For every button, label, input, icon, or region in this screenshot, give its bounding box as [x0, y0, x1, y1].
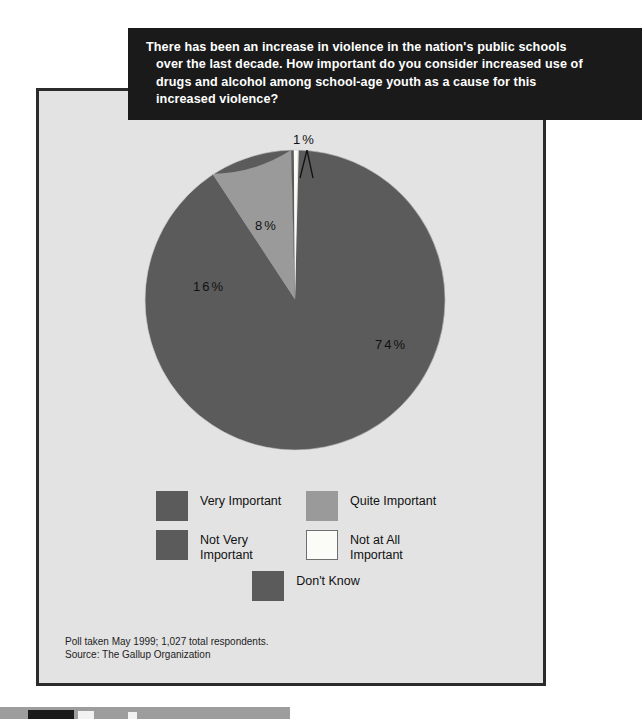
legend-label-not-very-important: Not Very Important	[200, 530, 253, 562]
question-banner: There has been an increase in violence i…	[128, 28, 642, 120]
legend-swatch-not-very-important	[156, 530, 188, 560]
legend-swatch-not-at-all-important	[306, 530, 338, 560]
page-bottom-highlight	[78, 711, 94, 719]
legend: Very Important Quite Important Not Very …	[156, 491, 456, 610]
legend-row: Not Very Important Not at All Important	[156, 530, 456, 562]
legend-label-not-at-all-important: Not at All Important	[350, 530, 403, 562]
legend-swatch-dont-know	[252, 571, 284, 601]
footnote-poll-info: Poll taken May 1999; 1,027 total respond…	[65, 636, 268, 649]
legend-row: Don't Know	[156, 571, 456, 601]
legend-item-quite-important[interactable]: Quite Important	[306, 491, 456, 521]
chart-card: 74% 16% 8% 1% Very Important Quite Impor…	[36, 88, 546, 686]
pie-label-not-at-all-important: 1%	[293, 132, 316, 147]
legend-swatch-very-important	[156, 491, 188, 521]
pie-label-not-very-important: 8%	[255, 218, 278, 233]
legend-label-very-important: Very Important	[200, 491, 281, 509]
page-bottom-highlight-2	[128, 712, 137, 719]
footnote-source: Source: The Gallup Organization	[65, 649, 268, 662]
pie-label-very-important: 74%	[375, 337, 407, 352]
pie-chart: 74% 16% 8% 1%	[143, 148, 447, 452]
question-line-4: increased violence?	[146, 91, 628, 108]
question-line-3: drugs and alcohol among school-age youth…	[146, 74, 628, 91]
legend-row: Very Important Quite Important	[156, 491, 456, 521]
question-line-1: There has been an increase in violence i…	[146, 39, 628, 56]
legend-item-very-important[interactable]: Very Important	[156, 491, 306, 521]
legend-swatch-quite-important	[306, 491, 338, 521]
pie-label-quite-important: 16%	[193, 279, 225, 294]
pie-chart-svg	[143, 148, 447, 452]
legend-label-dont-know: Don't Know	[296, 571, 360, 589]
pie-leader-line-icon	[297, 150, 317, 180]
legend-item-dont-know[interactable]: Don't Know	[156, 571, 456, 601]
footnote: Poll taken May 1999; 1,027 total respond…	[65, 636, 268, 661]
question-line-2: over the last decade. How important do y…	[146, 56, 628, 73]
legend-item-not-at-all-important[interactable]: Not at All Important	[306, 530, 456, 562]
legend-label-quite-important: Quite Important	[350, 491, 436, 509]
legend-item-not-very-important[interactable]: Not Very Important	[156, 530, 306, 562]
page-bottom-block	[28, 710, 74, 719]
